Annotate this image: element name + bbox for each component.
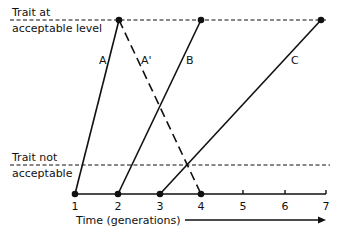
time-arrow-head-icon bbox=[318, 217, 326, 224]
point-gen4-bottom bbox=[198, 191, 205, 198]
point-gen3-bottom bbox=[157, 191, 164, 198]
acceptable-label-line1: Trait at bbox=[11, 6, 51, 19]
line-a-prime-label: A' bbox=[141, 54, 152, 67]
point-gen1-bottom bbox=[72, 191, 79, 198]
point-gen2-top bbox=[116, 17, 123, 24]
not-acceptable-label-line1: Trait not bbox=[11, 151, 58, 164]
line-a bbox=[75, 20, 119, 194]
tick-label-1: 1 bbox=[72, 200, 79, 213]
tick-label-2: 2 bbox=[115, 200, 122, 213]
point-gen7-top bbox=[318, 17, 325, 24]
line-a-label: A bbox=[99, 54, 107, 67]
tick-label-5: 5 bbox=[240, 200, 247, 213]
line-b-label: B bbox=[186, 54, 194, 67]
tick-label-7: 7 bbox=[323, 200, 330, 213]
line-c bbox=[160, 20, 321, 194]
line-c-label: C bbox=[291, 54, 299, 67]
point-gen4-top bbox=[198, 17, 205, 24]
acceptable-label-line2: acceptable level bbox=[12, 22, 102, 35]
tick-label-4: 4 bbox=[198, 200, 205, 213]
point-gen2-bottom bbox=[115, 191, 122, 198]
tick-label-3: 3 bbox=[157, 200, 164, 213]
diagram-canvas: Trait at acceptable level Trait not acce… bbox=[0, 0, 339, 236]
tick-label-6: 6 bbox=[282, 200, 289, 213]
x-axis-label: Time (generations) bbox=[75, 214, 181, 227]
not-acceptable-label-line2: acceptable bbox=[12, 167, 73, 180]
